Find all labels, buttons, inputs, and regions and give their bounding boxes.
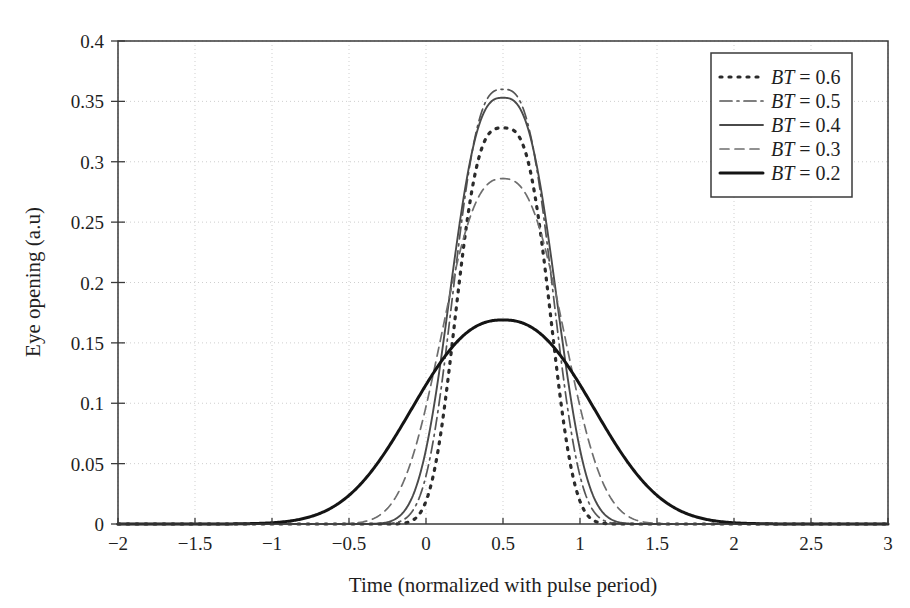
y-tick-label: 0.35 [71,91,104,112]
y-tick-label: 0.2 [80,273,104,294]
x-tick-label: 3 [883,533,893,554]
y-tick-label: 0.25 [71,212,104,233]
y-tick-label: 0.4 [80,31,104,52]
x-tick-label: 0 [421,533,431,554]
y-tick-label: 0.1 [80,393,104,414]
legend-label-3: BT = 0.3 [771,138,841,160]
x-tick-label: 2 [729,533,739,554]
y-tick-label: 0.3 [80,152,104,173]
x-tick-label: 1 [575,533,585,554]
y-tick-label: 0 [95,514,105,535]
chart-figure: −2−1.5−1−0.500.511.522.53 00.050.10.150.… [0,0,910,608]
legend-label-4: BT = 0.2 [771,162,841,184]
legend-label-0: BT = 0.6 [771,66,841,88]
x-axis-title: Time (normalized with pulse period) [349,573,657,597]
y-axis-title: Eye opening (a.u) [21,207,45,357]
x-tick-label: −1.5 [178,533,212,554]
x-tick-label: 2.5 [799,533,823,554]
eye-opening-line-chart: −2−1.5−1−0.500.511.522.53 00.050.10.150.… [0,0,910,608]
x-tick-label: −1 [262,533,282,554]
x-tick-label: 0.5 [491,533,515,554]
x-tick-label: −0.5 [332,533,366,554]
chart-legend[interactable]: BT = 0.6BT = 0.5BT = 0.4BT = 0.3BT = 0.2 [711,53,852,197]
x-tick-label: −2 [108,533,128,554]
y-tick-label: 0.15 [71,333,104,354]
y-tick-label: 0.05 [71,454,104,475]
legend-label-1: BT = 0.5 [771,90,841,112]
x-tick-label: 1.5 [645,533,669,554]
legend-label-2: BT = 0.4 [771,114,841,136]
